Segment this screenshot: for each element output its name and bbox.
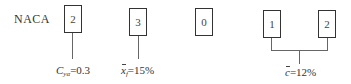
connector-camber-position [138, 36, 139, 59]
camber-position-value: =15% [128, 64, 154, 76]
digit-box-reflex: 0 [195, 8, 213, 36]
digit-value: 0 [201, 16, 207, 28]
thickness-symbol: c [285, 66, 290, 78]
thickness-label: c=12% [285, 66, 316, 78]
digit-value: 1 [269, 18, 275, 30]
camber-position-symbol: x [121, 64, 126, 76]
thickness-value: =12% [290, 66, 316, 78]
digit-box-thickness-units: 2 [318, 10, 336, 38]
lift-coefficient-label: Cyα=0.3 [56, 64, 90, 78]
bracket-stem [299, 50, 300, 64]
digit-value: 3 [135, 16, 141, 28]
naca-prefix-label: NACA [14, 12, 50, 27]
digit-value: 2 [70, 13, 76, 25]
digit-box-camber-position: 3 [129, 8, 147, 36]
lift-value: =0.3 [70, 64, 90, 76]
naca-airfoil-designation-diagram: NACA 2 Cyα=0.3 3 xf=15% 0 1 2 c=12% [0, 0, 351, 84]
camber-position-label: xf=15% [121, 64, 154, 78]
digit-box-lift-coefficient: 2 [64, 5, 82, 33]
connector-lift [72, 33, 73, 59]
digit-box-thickness-tens: 1 [263, 10, 281, 38]
digit-value: 2 [324, 18, 330, 30]
